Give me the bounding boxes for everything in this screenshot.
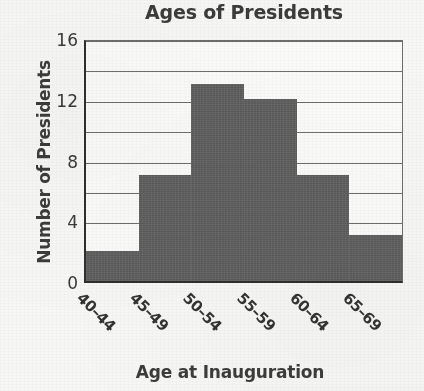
bar — [297, 175, 350, 281]
bar-series — [86, 41, 402, 281]
bar — [86, 251, 139, 281]
bar — [349, 235, 402, 281]
y-tick-label: 4 — [48, 212, 78, 232]
chart-title: Ages of Presidents — [84, 1, 404, 23]
x-tick-label: 45–49 — [126, 289, 172, 335]
x-tick-label: 60–64 — [286, 289, 332, 335]
x-tick-label: 65–69 — [339, 289, 385, 335]
x-axis-title: Age at Inauguration — [60, 362, 400, 382]
x-axis-tick-labels: 40–4445–4950–5455–5960–6465–69 — [84, 283, 403, 353]
bar — [191, 84, 244, 281]
chart-page: Ages of Presidents Number of Presidents … — [0, 0, 424, 391]
y-axis-tick-labels: 0481216 — [44, 40, 78, 283]
plot-area — [84, 40, 403, 283]
x-tick-label: 50–54 — [180, 289, 226, 335]
y-tick-label: 0 — [48, 273, 78, 293]
y-tick-label: 8 — [48, 152, 78, 172]
bar — [139, 175, 192, 281]
bar — [244, 99, 297, 281]
x-tick-label: 55–59 — [233, 289, 279, 335]
x-tick-label: 40–44 — [73, 289, 119, 335]
y-tick-label: 12 — [48, 91, 78, 111]
y-tick-label: 16 — [48, 30, 78, 50]
